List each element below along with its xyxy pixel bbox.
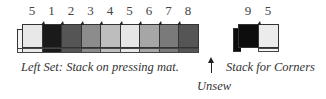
left-corner-tick-7: [158, 21, 162, 25]
left-label-0: 5: [22, 3, 42, 19]
right-label-0: 9: [238, 3, 258, 19]
left-square-5: [120, 24, 141, 48]
right-square-0: [238, 24, 259, 48]
left-label-4: 4: [100, 3, 120, 19]
left-label-8: 8: [178, 3, 198, 19]
left-corner-tick-3: [80, 21, 84, 25]
left-corner-tick-1: [41, 21, 45, 25]
left-label-3: 3: [81, 3, 101, 19]
left-strip-2: [61, 48, 82, 53]
left-label-2: 2: [61, 3, 81, 19]
left-label-5: 5: [120, 3, 140, 19]
left-square-0: [22, 24, 43, 48]
left-square-1: [42, 24, 63, 48]
left-strip-8: [178, 48, 199, 53]
right-corner-tick-1: [257, 21, 261, 25]
left-corner-tick-2: [60, 21, 64, 25]
right-label-1: 5: [258, 3, 278, 19]
left-square-6: [139, 24, 160, 48]
left-strip-4: [100, 48, 121, 53]
left-label-7: 7: [159, 3, 179, 19]
left-corner-tick-6: [138, 21, 142, 25]
left-strip-0: [22, 48, 43, 53]
right-stack-strip: [258, 48, 279, 52]
left-corner-tick-4: [99, 21, 103, 25]
left-label-1: 1: [42, 3, 62, 19]
right-square-1: [258, 24, 279, 48]
left-strip-7: [159, 48, 180, 53]
left-square-2: [61, 24, 82, 48]
unsew-label: Unsew: [197, 79, 231, 94]
left-corner-tick-8: [177, 21, 181, 25]
left-strip-3: [81, 48, 102, 53]
left-set-caption: Left Set: Stack on pressing mat.: [21, 60, 179, 75]
left-square-8: [178, 24, 199, 48]
left-corner-tick-5: [119, 21, 123, 25]
left-strip-1: [42, 48, 63, 53]
left-square-3: [81, 24, 102, 48]
left-label-6: 6: [139, 3, 159, 19]
left-strip-6: [139, 48, 160, 53]
left-strip-5: [120, 48, 141, 53]
left-square-7: [159, 24, 180, 48]
left-square-4: [100, 24, 121, 48]
right-set-caption: Stack for Corners: [226, 60, 315, 75]
